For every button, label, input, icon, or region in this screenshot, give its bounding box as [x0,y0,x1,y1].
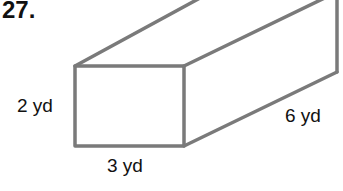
width-label: 3 yd [107,155,143,177]
top-right-edge [184,0,337,66]
height-label: 2 yd [17,95,53,117]
length-label: 6 yd [285,105,321,127]
top-left-edge [75,0,200,66]
front-face [75,66,184,146]
